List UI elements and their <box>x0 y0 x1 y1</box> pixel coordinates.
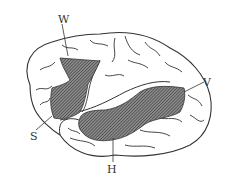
hatched-region-w-s <box>51 58 100 119</box>
label-s: S <box>30 131 38 142</box>
leader-v <box>184 82 204 92</box>
hatched-region-h-v <box>79 86 185 140</box>
brain-diagram: W S V H <box>0 0 228 192</box>
label-v: V <box>203 77 211 88</box>
label-h: H <box>107 164 117 175</box>
leader-w <box>62 24 68 56</box>
label-w: W <box>58 14 69 25</box>
